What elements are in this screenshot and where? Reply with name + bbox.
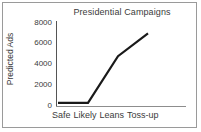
y-axis-tick-labels: 8000 6000 4000 2000 0 — [18, 0, 52, 132]
y-tick-label-8000: 8000 — [18, 18, 52, 27]
x-tick-label-leans: Leans — [100, 110, 125, 120]
y-tick-label-2000: 2000 — [18, 80, 52, 89]
y-axis-label: Predicted Ads — [5, 29, 15, 89]
chart-title: Presidential Campaigns — [52, 7, 192, 17]
x-tick-label-toss-up: Toss-up — [127, 110, 159, 120]
y-tick-label-6000: 6000 — [18, 38, 52, 47]
x-tick-label-safe: Safe — [52, 110, 71, 120]
chart-screenshot: Presidential Campaigns Predicted Ads 800… — [0, 0, 201, 132]
x-axis-tick-labels: Safe Likely Leans Toss-up — [52, 110, 172, 120]
x-tick-label-likely: Likely — [74, 110, 97, 120]
y-tick-label-4000: 4000 — [18, 59, 52, 68]
y-tick-label-0: 0 — [18, 101, 52, 110]
x-axis-line — [56, 106, 186, 107]
y-axis-line — [56, 21, 57, 106]
